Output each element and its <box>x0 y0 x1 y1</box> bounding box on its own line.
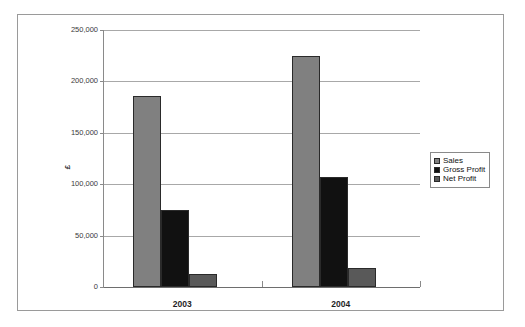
gridline <box>104 287 420 288</box>
legend-item-label: Gross Profit <box>443 166 485 174</box>
gridline <box>104 81 420 82</box>
x-axis-tick <box>262 281 263 287</box>
y-axis-tick <box>100 236 104 237</box>
y-axis-tick <box>100 30 104 31</box>
x-axis-category-label: 2003 <box>173 300 192 309</box>
bar-gross-profit-2004 <box>320 177 348 287</box>
y-axis-tick <box>100 184 104 185</box>
x-axis-tick <box>420 281 421 287</box>
bar-net-profit-2003 <box>189 274 217 287</box>
y-axis-tick <box>100 133 104 134</box>
y-axis-tick-label: 0 <box>94 283 98 291</box>
legend-item: Gross Profit <box>434 166 485 174</box>
y-axis-tick-label: 200,000 <box>71 78 98 86</box>
y-axis-title: £ <box>64 165 72 169</box>
chart-frame: £ 050,000100,000150,000200,000250,000 20… <box>17 14 504 311</box>
y-axis-tick-label: 250,000 <box>71 26 98 34</box>
y-axis-tick <box>100 81 104 82</box>
bar-sales-2003 <box>133 96 161 287</box>
gridline <box>104 30 420 31</box>
bar-gross-profit-2003 <box>161 210 189 287</box>
legend-swatch-icon <box>434 167 440 173</box>
legend-item-label: Net Profit <box>443 175 476 183</box>
x-axis-category-label: 2004 <box>331 300 350 309</box>
legend-swatch-icon <box>434 176 440 182</box>
legend-item: Sales <box>434 157 485 165</box>
y-axis-tick-label: 100,000 <box>71 180 98 188</box>
legend-swatch-icon <box>434 158 440 164</box>
plot-area: 050,000100,000150,000200,000250,000 <box>103 30 420 287</box>
y-axis-tick-label: 50,000 <box>75 232 98 240</box>
bar-sales-2004 <box>292 56 320 287</box>
y-axis-tick <box>100 287 104 288</box>
bar-net-profit-2004 <box>348 268 376 287</box>
chart-legend: SalesGross ProfitNet Profit <box>430 152 490 188</box>
legend-item: Net Profit <box>434 175 485 183</box>
y-axis-tick-label: 150,000 <box>71 129 98 137</box>
legend-item-label: Sales <box>443 157 463 165</box>
